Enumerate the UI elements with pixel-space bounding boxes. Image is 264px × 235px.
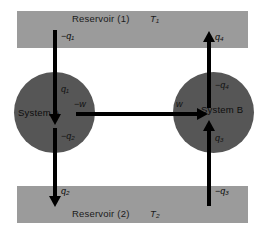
q3-source-label: −q₃ xyxy=(215,186,229,196)
work-arrow-shaft xyxy=(76,112,201,116)
q2-arrow-head-icon xyxy=(49,196,61,207)
thermodynamics-diagram: Reservoir (1) T₁ Reservoir (2) T₂ System… xyxy=(0,0,264,235)
work-arrow-head-icon xyxy=(197,108,208,120)
q1-target-label: q₁ xyxy=(61,84,69,94)
q2-arrow-shaft xyxy=(53,128,57,202)
q4-arrow-shaft xyxy=(207,41,211,108)
q4-source-label: −q₄ xyxy=(215,80,229,90)
q4-target-label: q₄ xyxy=(215,32,224,42)
q3-target-label: q₃ xyxy=(215,133,224,143)
q4-arrow-head-icon xyxy=(203,31,215,42)
q1-arrow-head-icon xyxy=(49,114,61,125)
reservoir-1-name: Reservoir (1) xyxy=(72,13,130,24)
q1-arrow-shaft xyxy=(53,30,57,120)
work-target-label: w xyxy=(176,99,183,109)
q1-source-label: −q₁ xyxy=(61,31,74,41)
q2-source-label: −q₂ xyxy=(61,131,75,141)
reservoir-1-temperature: T₁ xyxy=(150,13,159,24)
reservoir-2-temperature: T₂ xyxy=(150,208,160,219)
q3-arrow-head-icon xyxy=(203,120,215,131)
reservoir-1-bar xyxy=(17,11,248,48)
q2-target-label: q₂ xyxy=(61,186,69,196)
q3-arrow-shaft xyxy=(207,128,211,206)
work-source-label: −w xyxy=(74,99,86,109)
reservoir-2-name: Reservoir (2) xyxy=(72,208,130,219)
